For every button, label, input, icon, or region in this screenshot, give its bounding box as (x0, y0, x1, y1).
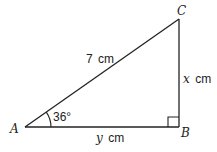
side-length-AC: 7 (86, 52, 93, 66)
vertex-label-B: B (180, 126, 190, 140)
vertex-label-C: C (177, 4, 186, 18)
side-label-AB: y cm (95, 131, 124, 145)
side-variable-BC: x (183, 72, 190, 86)
side-label-AC: 7 cm (86, 52, 114, 66)
angle-label-A: 36° (53, 110, 71, 124)
right-angle-marker (168, 117, 179, 127)
angle-arc-A (46, 112, 51, 127)
vertex-label-A: A (9, 122, 19, 136)
side-variable-AB: y (95, 131, 103, 145)
side-unit-AC: cm (98, 52, 114, 66)
triangle-diagram: A B C 36° 7 cm x cm y cm (0, 0, 217, 152)
side-unit-BC: cm (195, 72, 211, 86)
side-AC (25, 19, 179, 127)
side-label-BC: x cm (183, 72, 211, 86)
side-unit-AB: cm (108, 131, 124, 145)
